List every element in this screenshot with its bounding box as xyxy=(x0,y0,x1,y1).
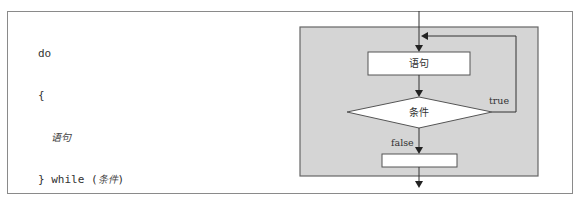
condition-label: 条件 xyxy=(409,106,429,118)
false-label: false xyxy=(391,137,414,148)
arrow-down-icon xyxy=(415,181,423,188)
true-label: true xyxy=(489,95,509,106)
do-while-flowchart: 语句 条件 true false xyxy=(0,0,581,202)
statement-label: 语句 xyxy=(409,57,429,69)
next-step-box xyxy=(382,154,457,167)
